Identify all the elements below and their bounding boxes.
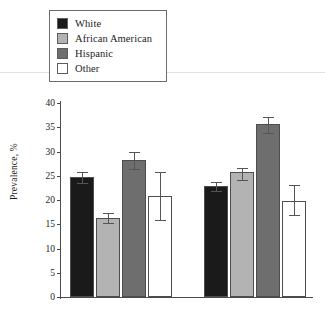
legend-item-other: Other <box>57 61 160 76</box>
y-axis-tick <box>57 273 61 274</box>
error-bar-line <box>134 152 135 169</box>
error-bar-cap-lower <box>77 183 88 184</box>
error-bar-cap-upper <box>263 117 274 118</box>
legend-label-white: White <box>75 18 101 29</box>
y-axis-tick-label: 40 <box>46 98 56 108</box>
error-bar-cap-upper <box>237 168 248 169</box>
error-bar-line <box>268 117 269 133</box>
chart-legend: White African American Hispanic Other <box>49 10 167 82</box>
plot-area: 0510152025303540MenWomen <box>61 103 313 297</box>
error-bar-cap-lower <box>103 223 114 224</box>
error-bar-cap-lower <box>211 191 222 192</box>
legend-item-hispanic: Hispanic <box>57 46 160 61</box>
error-bar-cap-lower <box>237 180 248 181</box>
legend-swatch-hispanic <box>57 48 68 59</box>
y-axis-tick-label: 5 <box>50 268 55 278</box>
y-axis-tick-label: 0 <box>50 292 55 302</box>
bar-men-white <box>70 177 94 297</box>
y-axis-title: Prevalence, % <box>9 143 19 200</box>
y-axis-tick <box>57 103 61 104</box>
error-bar-cap-lower <box>129 169 140 170</box>
y-axis-tick-label: 25 <box>46 171 56 181</box>
y-axis-tick <box>57 224 61 225</box>
error-bar-cap-upper <box>155 172 166 173</box>
error-bar-cap-lower <box>263 133 274 134</box>
error-bar-line <box>82 172 83 183</box>
y-axis-tick <box>57 152 61 153</box>
legend-item-african-american: African American <box>57 31 160 46</box>
legend-swatch-other <box>57 63 68 74</box>
error-bar-cap-upper <box>211 182 222 183</box>
legend-label-other: Other <box>75 63 99 74</box>
bar-women-african-american <box>230 172 254 297</box>
y-axis-tick-label: 30 <box>46 147 56 157</box>
bar-men-african-american <box>96 218 120 297</box>
y-axis-tick <box>57 249 61 250</box>
y-axis-tick <box>57 127 61 128</box>
error-bar-line <box>294 185 295 215</box>
y-axis-tick-label: 20 <box>46 195 56 205</box>
y-axis-tick-label: 10 <box>46 244 56 254</box>
y-axis-tick-label: 15 <box>46 219 56 229</box>
legend-label-african-american: African American <box>75 33 152 44</box>
bar-women-hispanic <box>256 124 280 297</box>
error-bar-line <box>108 213 109 224</box>
x-axis-line <box>60 297 313 298</box>
legend-label-hispanic: Hispanic <box>75 48 113 59</box>
legend-item-white: White <box>57 16 160 31</box>
legend-swatch-white <box>57 18 68 29</box>
error-bar-line <box>160 172 161 221</box>
bar-women-white <box>204 186 228 297</box>
error-bar-cap-upper <box>103 213 114 214</box>
y-axis-tick <box>57 176 61 177</box>
error-bar-cap-lower <box>155 220 166 221</box>
error-bar-cap-upper <box>129 152 140 153</box>
y-axis-tick <box>57 200 61 201</box>
bar-men-hispanic <box>122 160 146 297</box>
error-bar-cap-lower <box>289 215 300 216</box>
legend-swatch-african-american <box>57 33 68 44</box>
error-bar-line <box>242 168 243 180</box>
error-bar-cap-upper <box>289 185 300 186</box>
y-axis-tick-label: 35 <box>46 122 56 132</box>
error-bar-line <box>216 182 217 191</box>
y-axis-tick <box>57 297 61 298</box>
error-bar-cap-upper <box>77 172 88 173</box>
